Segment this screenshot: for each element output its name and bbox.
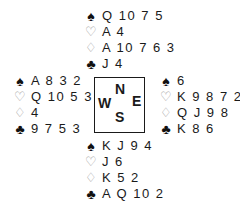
compass-box: N W E S — [94, 77, 145, 133]
heart-icon: ♡ — [84, 24, 98, 40]
spade-icon: ♠ — [84, 8, 98, 24]
club-icon: ♣ — [159, 121, 173, 137]
spade-icon: ♠ — [159, 73, 173, 89]
spade-icon: ♠ — [13, 73, 27, 89]
compass-south: S — [115, 109, 124, 125]
diamond-icon: ♢ — [159, 105, 173, 121]
diamond-icon: ♢ — [84, 170, 98, 186]
south-clubs: A Q 10 2 — [102, 186, 165, 202]
heart-icon: ♡ — [13, 89, 27, 105]
south-diamonds: K 5 2 — [102, 170, 140, 186]
north-diamonds: A 10 7 6 3 — [102, 40, 176, 56]
west-clubs: 9 7 5 3 — [31, 121, 81, 137]
north-hearts: A 4 — [102, 24, 125, 40]
west-diamonds: 4 — [31, 105, 40, 121]
heart-icon: ♡ — [84, 154, 98, 170]
diamond-icon: ♢ — [84, 40, 98, 56]
west-hearts: Q 10 5 3 — [31, 89, 93, 105]
compass-north: N — [115, 81, 125, 97]
east-diamonds: Q J 9 8 — [177, 105, 229, 121]
east-clubs: K 8 6 — [177, 121, 215, 137]
club-icon: ♣ — [84, 186, 98, 202]
heart-icon: ♡ — [159, 89, 173, 105]
south-hearts: J 6 — [102, 154, 124, 170]
club-icon: ♣ — [84, 56, 98, 72]
compass-east: E — [132, 93, 141, 109]
diamond-icon: ♢ — [13, 105, 27, 121]
east-spades: 6 — [177, 73, 186, 89]
compass-west: W — [98, 95, 111, 111]
club-icon: ♣ — [13, 121, 27, 137]
west-spades: A 8 3 2 — [31, 73, 82, 89]
south-spades: K J 9 4 — [102, 138, 153, 154]
north-clubs: J 4 — [102, 56, 124, 72]
north-spades: Q 10 7 5 — [102, 8, 164, 24]
spade-icon: ♠ — [84, 138, 98, 154]
east-hearts: K 9 8 7 2 — [177, 89, 240, 105]
